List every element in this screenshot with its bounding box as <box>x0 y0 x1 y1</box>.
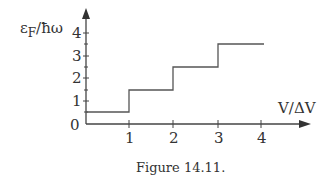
y-axis-arrow-icon <box>82 8 90 19</box>
x-axis-title: V/ΔV <box>277 99 317 117</box>
x-tick-label-1: 1 <box>125 129 135 147</box>
x-axis-arrow-icon <box>299 120 311 128</box>
step-series <box>86 44 264 112</box>
y-tick-label-4: 4 <box>72 24 82 42</box>
y-tick-label-1: 1 <box>72 92 82 110</box>
origin-label: 0 <box>70 116 80 134</box>
y-axis-title: εF/ħω <box>20 19 63 40</box>
figure-caption: Figure 14.11. <box>136 160 225 175</box>
step-chart: 4 3 2 1 0 1 2 3 4 εF/ħω V/ΔV Figure 14.1… <box>0 0 332 176</box>
x-tick-label-2: 2 <box>169 129 179 147</box>
y-tick-label-2: 2 <box>72 69 82 87</box>
y-axis-title-rest: /ħω <box>36 19 63 37</box>
x-tick-label-3: 3 <box>214 129 224 147</box>
x-tick-label-4: 4 <box>257 129 267 147</box>
y-axis-title-sub: F <box>28 26 36 40</box>
y-tick-label-3: 3 <box>72 47 82 65</box>
